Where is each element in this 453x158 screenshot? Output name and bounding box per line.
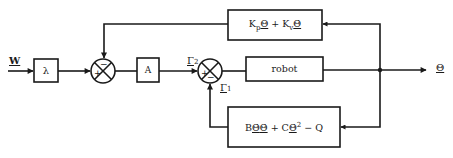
sum1-plus-sign: + (94, 68, 102, 78)
output-label-theta: Θ (436, 63, 444, 73)
dynamics-feedback-formula: BΘ̇Θ̇ + CΘ̇2 − Q (228, 122, 340, 133)
A-label: A (137, 66, 159, 75)
gamma1-label: Γ1 (220, 83, 231, 93)
gamma2-label: Γ2 (187, 56, 198, 66)
pd-to-sum1-arrow (104, 24, 228, 58)
lambda-label: λ (34, 66, 58, 76)
robot-label: robot (246, 64, 323, 74)
feedback-to-pd-arrow (323, 24, 380, 70)
block-diagram-canvas: + − + − (0, 0, 453, 158)
pd-feedback-formula: KpΘ + KvΘ̇ (228, 19, 322, 32)
feedback-to-dynamics-arrow (341, 70, 380, 127)
sum2-minus-sign: − (207, 72, 215, 82)
input-label-W: W (9, 56, 20, 66)
branch-point (378, 68, 382, 72)
sum1-minus-sign: − (100, 59, 108, 69)
